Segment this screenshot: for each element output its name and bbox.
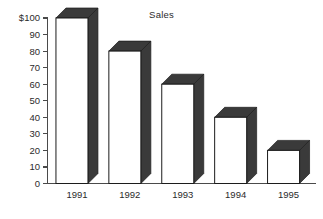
y-axis-tick-label: 20: [29, 145, 40, 156]
bar-front-face: [162, 84, 194, 183]
bar-side-face: [141, 41, 151, 183]
sales-bar-chart: Sales 0102030405060708090$100 1991199219…: [0, 0, 323, 219]
y-axis-tick-label: 30: [29, 128, 40, 139]
bar-side-face: [194, 74, 204, 183]
bar-front-face: [215, 117, 247, 183]
bar-front-face: [268, 150, 300, 183]
bar-front-face: [109, 51, 141, 183]
y-axis-tick-label: 70: [29, 62, 40, 73]
y-axis-tick-label: 10: [29, 161, 40, 172]
y-axis-tick-label: 90: [29, 29, 40, 40]
x-axis-tick-label: 1992: [119, 189, 140, 200]
x-axis-tick-label: 1994: [225, 189, 246, 200]
x-axis-tick-label: 1993: [172, 189, 193, 200]
y-axis-tick-label: 40: [29, 112, 40, 123]
y-axis-tick-marks: [43, 18, 48, 184]
x-axis-tick-label: 1991: [66, 189, 87, 200]
y-axis-tick-label: 50: [29, 95, 40, 106]
bars-group: [56, 8, 310, 184]
x-axis-tick-label: 1995: [278, 189, 299, 200]
y-axis-tick-label: $100: [19, 12, 40, 23]
bar-front-face: [56, 18, 88, 184]
x-axis-tick-labels: 19911992199319941995: [66, 189, 299, 200]
y-axis-tick-label: 0: [35, 178, 40, 189]
y-axis-tick-label: 80: [29, 46, 40, 57]
bar-side-face: [247, 107, 257, 183]
bar-side-face: [88, 8, 98, 184]
y-axis-tick-labels: 0102030405060708090$100: [19, 12, 40, 189]
chart-plot-area: 0102030405060708090$100 1991199219931994…: [0, 0, 323, 219]
y-axis-tick-label: 60: [29, 79, 40, 90]
